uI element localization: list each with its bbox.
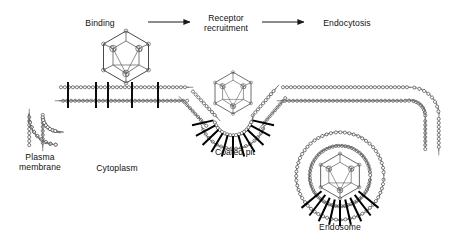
label-plasma-membrane: Plasma membrane — [8, 152, 72, 172]
label-coated-pit: Coated pit — [205, 147, 265, 157]
virus-particle-in-coated-pit — [213, 71, 252, 116]
label-endosome: Endosome — [305, 222, 375, 232]
flow-label-endocytosis: Endocytosis — [307, 18, 387, 28]
flow-label-binding: Binding — [72, 18, 128, 28]
flow-label-receptor-recruitment: Receptor recruitment — [190, 13, 262, 33]
label-cytoplasm: Cytoplasm — [85, 163, 149, 173]
virus-particle-in-endosome — [319, 152, 361, 200]
diagram-canvas: Binding Receptor recruitment Endocytosis… — [0, 0, 464, 236]
endocytosis-illustration — [0, 0, 464, 236]
virus-particle-free — [102, 29, 151, 85]
